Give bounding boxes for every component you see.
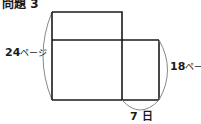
left-label-unit: ページ bbox=[20, 48, 47, 58]
left-label: 24ページ bbox=[5, 46, 47, 59]
right-label: 18ページ bbox=[170, 60, 201, 73]
bottom-label-value: 7 bbox=[130, 110, 138, 123]
right-label-unit: ページ bbox=[185, 62, 201, 72]
left-label-value: 24 bbox=[5, 46, 20, 59]
bottom-label: 7 日 bbox=[130, 107, 153, 123]
bottom-label-unit: 日 bbox=[142, 110, 153, 123]
right-brace-arc bbox=[159, 40, 168, 100]
top-rectangle bbox=[52, 12, 122, 100]
right-label-value: 18 bbox=[170, 60, 185, 73]
